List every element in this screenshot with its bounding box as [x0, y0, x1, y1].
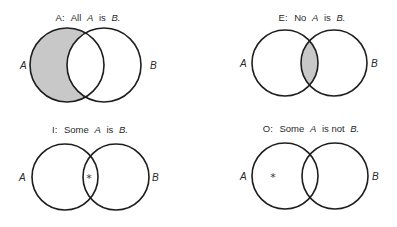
diagram-i-some-a-is-b: I: Some A is B. * A B [18, 124, 159, 210]
diagram-e-no-a-is-b: E: No A is B. A B [239, 12, 378, 96]
diagram-a-all-a-is-b: A: All A is B. A B [19, 12, 157, 102]
existence-marker-star: * [86, 172, 92, 185]
existence-marker-star: * [270, 171, 276, 184]
label-b: B [371, 58, 378, 69]
circle-b [302, 143, 368, 209]
label-a: A [239, 58, 247, 69]
diagram-i-title: I: Some A is B. [52, 124, 128, 135]
diagram-o-title: O: Some A is not B. [263, 123, 359, 134]
diagram-o-some-a-is-not-b: O: Some A is not B. * A B [239, 123, 379, 209]
venn-diagram-figure: A: All A is B. A B E: No A is B. A B I: … [0, 0, 397, 227]
circle-b [83, 144, 149, 210]
diagram-a-title: A: All A is B. [56, 12, 121, 23]
diagram-e-title: E: No A is B. [279, 12, 346, 23]
label-b: B [150, 60, 157, 71]
label-a: A [239, 171, 247, 182]
circle-a [252, 143, 318, 209]
label-b: B [152, 172, 159, 183]
label-a: A [19, 60, 27, 71]
label-a: A [18, 172, 26, 183]
label-b: B [372, 171, 379, 182]
